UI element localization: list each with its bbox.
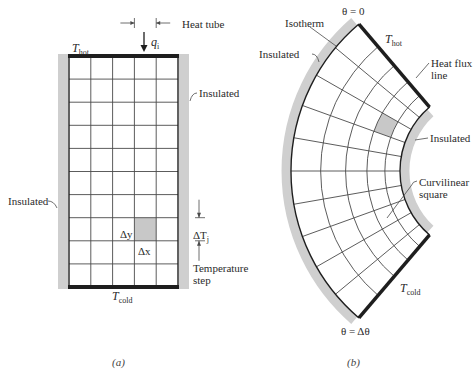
theta-delta-label: θ = Δθ — [341, 325, 370, 337]
temperature-step-line2: step — [193, 274, 248, 286]
curvilinear-line1: Curvilinear — [419, 176, 469, 188]
t-cold-label-b: Tcold — [400, 282, 420, 299]
t-hot-boundary — [359, 235, 430, 318]
delta-t-label: ΔTj — [193, 229, 209, 246]
delta-t-symbol: ΔT — [193, 229, 207, 241]
heat-flow-q-label: qi — [151, 36, 159, 53]
cold-subscript: cold — [407, 288, 421, 297]
heat-flux-line — [302, 200, 405, 237]
isotherm-label: Isotherm — [285, 17, 324, 29]
arrowhead-icon — [130, 21, 160, 25]
j-subscript: j — [207, 235, 209, 244]
shaded-grid-cell — [134, 218, 156, 241]
t-symbol: T — [112, 289, 119, 303]
leader-isotherm — [310, 27, 336, 46]
insulated-outer-label: Insulated — [259, 48, 299, 60]
shaded-curvilinear-square — [374, 113, 398, 137]
curvilinear-square-label: Curvilinear square — [419, 176, 469, 200]
heat-flux-line — [316, 75, 411, 129]
caption-b: (b) — [347, 356, 360, 368]
leader-insulated-right — [190, 93, 197, 101]
delta-y-label: Δy — [120, 228, 133, 240]
insulation-inner — [405, 113, 430, 229]
insulated-inner-label: Insulated — [430, 132, 470, 144]
heat-flux-line2: line — [431, 69, 472, 81]
panel-b-curvilinear-grid — [286, 22, 430, 321]
q-subscript: i — [157, 42, 159, 51]
t-symbol: T — [385, 32, 392, 46]
temperature-step-line1: Temperature — [193, 262, 248, 274]
insulated-right-label-a: Insulated — [199, 87, 239, 99]
curvilinear-line2: square — [419, 188, 469, 200]
heat-flux-line1: Heat flux — [431, 57, 472, 69]
heat-flux-line — [294, 185, 401, 204]
heat-tube-label: Heat tube — [182, 18, 224, 30]
hot-subscript: hot — [392, 39, 402, 48]
heat-flux-line-label: Heat flux line — [431, 57, 472, 81]
leader-heat-flux — [416, 63, 429, 78]
t-symbol: T — [72, 41, 79, 55]
insulated-left-label-a: Insulated — [8, 195, 48, 207]
hot-subscript: hot — [79, 48, 89, 57]
insulation-left — [58, 54, 68, 289]
t-symbol: T — [400, 281, 407, 295]
t-hot-label-b: Thot — [385, 33, 402, 50]
theta-zero-label: θ = 0 — [342, 5, 364, 17]
insulation-right — [179, 54, 189, 289]
cold-subscript: cold — [119, 296, 133, 305]
heat-flux-line — [294, 138, 401, 157]
heat-flux-line — [316, 213, 411, 267]
leader-insulated-left — [48, 201, 57, 208]
t-hot-label-a: Thot — [72, 42, 89, 59]
temperature-step-label: Temperature step — [193, 262, 248, 286]
caption-a: (a) — [112, 356, 125, 368]
t-cold-label-a: Tcold — [112, 290, 132, 307]
arrow-down-icon — [141, 45, 148, 52]
delta-x-label: Δx — [138, 245, 151, 257]
